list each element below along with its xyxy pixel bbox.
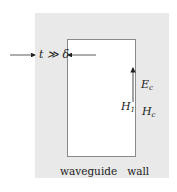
arrows-layer [0,0,177,192]
h1-label: H1 [121,101,135,114]
hc-label: Hc [142,106,156,119]
thickness-label: t ≫ δ [39,49,69,60]
caption-word-wall: wall [127,165,149,177]
caption: waveguidewall [60,165,149,177]
caption-word-waveguide: waveguide [60,165,117,177]
ec-label: Ec [141,79,153,92]
